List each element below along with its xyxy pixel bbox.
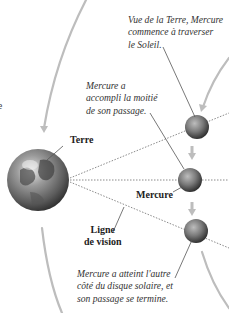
annotation-transit-end: Mercure a atteint l'autre côté du disque… [77, 268, 173, 305]
earth-orbit-arc-upper [44, 0, 86, 128]
annotation-line: son passage se termine. [77, 293, 173, 305]
mercury-middle [178, 168, 202, 192]
mercury-orbit-arc-lower [202, 252, 229, 308]
annotation-line: commence à traverser [128, 26, 223, 38]
annotation-transit-middle: Mercure a accompli la moitié de son pass… [86, 80, 157, 117]
cropped-text-fragment: e [0, 100, 2, 112]
label-line: Ligne [84, 224, 122, 236]
annotation-line: Vue de la Terre, Mercure [128, 14, 223, 26]
annotation-line: accompli la moitié [86, 92, 157, 104]
arrowheads [40, 104, 207, 216]
earth-orbit-arc-lower [42, 228, 62, 313]
mercury-end [184, 219, 208, 243]
annotation-line: le Soleil. [128, 39, 223, 51]
mercury-label: Mercure [136, 189, 173, 201]
mercury-orbit-arc-upper [203, 58, 229, 107]
annotation-line: Mercure a atteint l'autre [77, 268, 173, 280]
earth [7, 149, 69, 211]
line-of-sight-label: Ligne de vision [84, 224, 122, 248]
arrow-down-icon [199, 104, 207, 112]
annotation-line: de son passage. [86, 105, 157, 117]
mercury-positions [178, 115, 209, 243]
annotation-line: côté du disque solaire, et [77, 280, 173, 292]
label-line: de vision [84, 236, 122, 248]
annotation-line: Mercure a [86, 80, 157, 92]
earth-label: Terre [70, 134, 93, 146]
arrow-down-icon [40, 126, 48, 133]
arrow-down-icon [188, 209, 196, 216]
annotation-transit-start: Vue de la Terre, Mercure commence à trav… [128, 14, 223, 51]
arrow-down-icon [188, 153, 196, 160]
mercury-start [185, 115, 209, 139]
